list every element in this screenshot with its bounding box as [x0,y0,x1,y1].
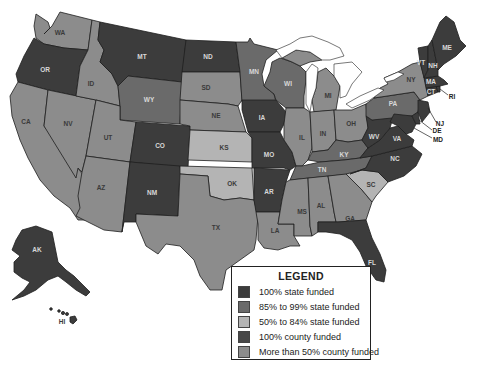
state-label-AZ: AZ [97,184,106,191]
state-label-AL: AL [317,202,326,209]
state-label-VA: VA [393,135,402,142]
legend-label: 50% to 84% state funded [259,317,360,327]
legend-label: More than 50% county funded [259,347,379,357]
state-label-WV: WV [369,133,380,140]
state-label-CT: CT [427,88,436,95]
state-label-NM: NM [147,189,157,196]
state-label-SC: SC [366,181,375,188]
legend: LEGEND 100% state funded 85% to 99% stat… [231,266,371,360]
state-label-HI: HI [59,318,66,325]
state-label-NJ: NJ [436,120,445,127]
state-label-CA: CA [21,118,31,125]
state-label-ND: ND [203,53,213,60]
state-label-MS: MS [297,208,307,215]
state-AZ[interactable] [76,156,130,232]
swatch-state-85-99 [238,301,250,313]
legend-item-county-100: 100% county funded [238,329,364,344]
state-label-WY: WY [144,96,155,103]
state-label-RI: RI [449,93,456,100]
state-label-TX: TX [212,224,221,231]
state-label-IL: IL [299,134,305,141]
legend-title: LEGEND [238,270,364,282]
legend-label: 100% county funded [259,332,341,342]
state-label-MA: MA [426,78,436,85]
state-label-LA: LA [271,227,280,234]
state-label-ME: ME [442,44,452,51]
state-label-MO: MO [264,151,274,158]
state-label-NY: NY [406,76,416,83]
state-label-FL: FL [368,259,376,266]
state-label-MI: MI [324,92,331,99]
state-label-GA: GA [345,215,355,222]
state-label-VT: VT [417,59,425,66]
state-label-NC: NC [390,155,400,162]
state-label-DE: DE [432,127,442,134]
swatch-county-100 [238,331,250,343]
state-NY[interactable] [374,62,428,100]
state-label-IA: IA [259,114,266,121]
legend-item-state-100: 100% state funded [238,284,364,299]
legend-label: 85% to 99% state funded [259,302,360,312]
state-label-ID: ID [88,80,95,87]
legend-item-state-50-84: 50% to 84% state funded [238,314,364,329]
state-label-WA: WA [55,29,66,36]
state-label-UT: UT [104,134,113,141]
state-label-OR: OR [40,66,50,73]
swatch-state-50-84 [238,316,250,328]
state-label-MT: MT [137,53,146,60]
state-label-NE: NE [211,112,221,119]
legend-item-county-50-plus: More than 50% county funded [238,344,364,359]
swatch-county-50-plus [238,346,250,358]
state-label-KY: KY [339,151,349,158]
state-label-CO: CO [155,142,165,149]
state-label-AK: AK [32,246,42,253]
state-label-MD: MD [433,136,443,143]
state-label-IN: IN [320,130,327,137]
legend-item-state-85-99: 85% to 99% state funded [238,299,364,314]
state-NJ[interactable] [418,100,430,122]
state-label-KS: KS [219,144,229,151]
state-label-PA: PA [389,100,398,107]
legend-label: 100% state funded [259,287,334,297]
state-label-AR: AR [264,188,274,195]
state-AK[interactable] [12,226,90,300]
state-label-OK: OK [227,180,237,187]
state-label-TN: TN [318,166,327,173]
swatch-state-100 [238,286,250,298]
state-label-NH: NH [428,62,438,69]
state-label-MN: MN [249,68,259,75]
state-label-NV: NV [63,120,73,127]
state-label-WI: WI [284,80,292,87]
state-label-SD: SD [201,84,210,91]
state-label-OH: OH [346,120,356,127]
